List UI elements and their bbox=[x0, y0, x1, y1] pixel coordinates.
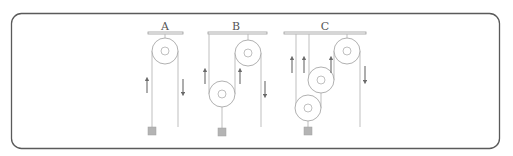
pulley-axle bbox=[343, 47, 351, 55]
pulley-axle bbox=[304, 104, 312, 112]
pulley-axle bbox=[317, 76, 325, 84]
pulley-system-c: C bbox=[284, 20, 366, 135]
system-label-c: C bbox=[321, 20, 329, 33]
system-label-b: B bbox=[232, 20, 240, 33]
pulley-axle bbox=[161, 47, 169, 55]
pulley-diagram: A B bbox=[0, 0, 513, 156]
ceiling-bar-b bbox=[208, 32, 267, 34]
weight-block-icon bbox=[218, 128, 226, 136]
pulley-axle bbox=[244, 49, 252, 57]
weight-block-icon bbox=[148, 127, 156, 135]
pulley-system-a: A bbox=[147, 20, 183, 135]
pulley-axle bbox=[218, 90, 226, 98]
ceiling-bar-c bbox=[284, 32, 366, 34]
system-label-a: A bbox=[160, 20, 170, 33]
weight-block-icon bbox=[304, 127, 312, 135]
pulley-system-b: B bbox=[205, 20, 267, 136]
ceiling-bar-a bbox=[148, 32, 183, 34]
